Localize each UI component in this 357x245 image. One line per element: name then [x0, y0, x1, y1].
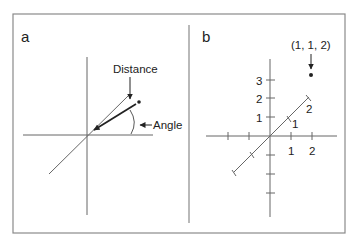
- panel-b-x-tick-1: 1: [288, 145, 294, 157]
- panel-a-point: [137, 100, 141, 104]
- panel-b-y-tick-1: 1: [256, 112, 262, 124]
- panel-b-point-label: (1, 1, 2): [291, 39, 331, 51]
- panel-b-letter: b: [202, 28, 210, 45]
- panel-b-z-tick-1: 1: [292, 118, 298, 130]
- panel-b-x-tick-2: 2: [309, 145, 315, 157]
- panel-b: b 1 2 3: [202, 28, 337, 217]
- panel-a-angle-arc: [130, 110, 134, 134]
- panel-a-angle-label: Angle: [153, 119, 182, 131]
- panel-a: a Distance Angle: [21, 28, 182, 215]
- figure: a Distance Angle b: [0, 0, 357, 245]
- panel-b-y-tick-2: 2: [256, 93, 262, 105]
- panel-a-letter: a: [21, 28, 30, 45]
- panel-b-z-tick-2: 2: [306, 103, 312, 115]
- panel-a-distance-label: Distance: [113, 63, 158, 75]
- panel-b-y-tick-3: 3: [256, 75, 262, 87]
- panel-b-point: [309, 73, 313, 77]
- panel-b-depth-axis: [234, 97, 309, 172]
- panel-a-vector-arrow: [94, 104, 136, 130]
